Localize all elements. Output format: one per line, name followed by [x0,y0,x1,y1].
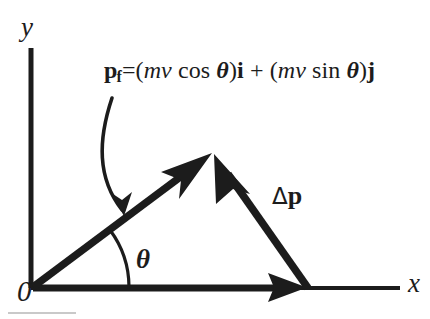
term-2-function: sin [312,57,340,83]
close-paren-1: ) [229,57,237,83]
momentum-equation-label: pf=(mv cos θ)i + (mv sin θ)j [104,58,375,85]
close-paren-2: ) [359,57,367,83]
momentum-vector-diagram: y x 0 θ Δp pf=(mv cos θ)i + (mv sin θ)j [0,0,430,319]
pf-vector-arrowhead [161,153,212,199]
plus-sign: + [250,57,264,83]
scan-artifact-line [8,312,76,314]
leader-curve [102,98,122,210]
term-2-scalar: mv [278,57,306,83]
delta-p-label: Δp [272,183,302,209]
unit-vector-j: j [367,57,375,83]
origin-label: 0 [17,277,32,306]
x-axis-label: x [408,270,420,297]
open-paren-2: ( [270,57,278,83]
term-1-angle: θ [216,57,229,83]
term-1-scalar: mv [144,57,172,83]
y-axis-label: y [21,14,33,41]
delta-symbol: Δ [272,183,288,209]
unit-vector-i: i [237,57,244,83]
angle-arc [110,230,129,287]
term-2-angle: θ [346,57,359,83]
pf-vector-shaft [33,166,195,287]
delta-p-vector-symbol: p [288,181,302,210]
term-1-function: cos [178,57,210,83]
open-paren-1: ( [136,57,144,83]
angle-theta-label: θ [136,246,150,273]
diagram-canvas [0,0,430,319]
equals-sign: = [122,57,136,83]
